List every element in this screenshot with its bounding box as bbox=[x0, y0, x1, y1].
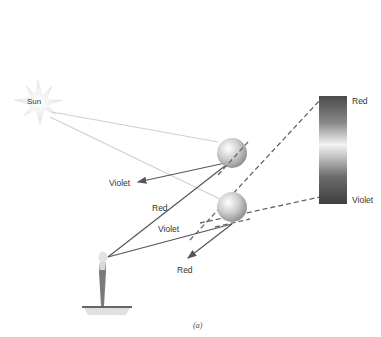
sunlight-rays bbox=[50, 112, 222, 200]
dashed-sight-lines bbox=[190, 100, 320, 240]
upper-red-label: Red bbox=[152, 203, 168, 213]
refracted-rays bbox=[108, 162, 232, 258]
spectrum-bottom-label: Violet bbox=[352, 195, 373, 205]
ground-platform bbox=[82, 306, 132, 315]
upper-raindrop bbox=[217, 138, 247, 168]
lower-violet-label: Violet bbox=[158, 224, 179, 234]
lower-red-label: Red bbox=[177, 265, 193, 275]
figure-caption: (a) bbox=[193, 321, 202, 330]
upper-violet-label: Violet bbox=[109, 178, 130, 188]
spectrum-bar bbox=[319, 96, 347, 204]
observer-figure bbox=[99, 252, 107, 306]
sun-label: Sun bbox=[27, 97, 41, 106]
lower-raindrop bbox=[217, 192, 247, 222]
rainbow-diagram bbox=[0, 0, 381, 337]
spectrum-top-label: Red bbox=[352, 96, 368, 106]
